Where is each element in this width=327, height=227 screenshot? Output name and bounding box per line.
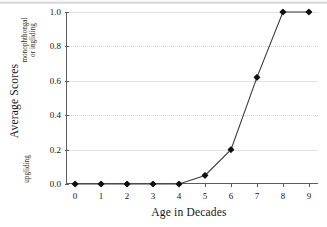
y-axis-bottom-annotation: upgliding [23,142,31,196]
x-axis-tick-label: 5 [203,191,208,201]
data-point [150,181,155,186]
y-axis-tick-label: 0.0 [50,179,61,189]
y-axis-tick-label: 0.6 [50,76,61,86]
y-axis-top-annotation-line1: monophthongal [21,17,29,62]
y-axis-tick-label: 0.8 [50,41,61,51]
data-point [124,181,129,186]
scan-band [0,0,327,4]
x-axis-tick-label: 2 [125,191,130,201]
x-axis-tick-label: 3 [151,191,156,201]
plot-area: 0.00.20.40.60.81.0 0123456789 [66,12,318,184]
x-axis-tick-label: 7 [255,191,260,201]
data-point [72,181,77,186]
x-axis-tick-label: 6 [229,191,234,201]
y-axis-top-annotation-line2: or ingliding [29,3,37,77]
x-axis-tick-label: 4 [177,191,182,201]
data-point [306,9,311,14]
chart-figure: Average Scores monophthongal or inglidin… [0,0,327,227]
y-axis-tick-label: 0.4 [50,110,61,120]
x-axis-tick-label: 1 [99,191,104,201]
data-point [280,9,285,14]
data-point [176,181,181,186]
series-line [75,12,309,184]
y-axis-title: Average Scores [8,31,20,171]
data-point [254,75,259,80]
y-axis-top-annotation: monophthongal or ingliding [21,3,37,77]
x-axis-tick-label: 0 [73,191,78,201]
data-point [98,181,103,186]
y-axis-tick [65,184,69,185]
x-axis-tick-label: 9 [307,191,312,201]
y-axis-tick-label: 0.2 [50,145,61,155]
data-series [66,12,318,184]
x-axis-title: Age in Decades [57,206,321,218]
x-axis-tick-label: 8 [281,191,286,201]
y-axis-tick-label: 1.0 [50,7,61,17]
